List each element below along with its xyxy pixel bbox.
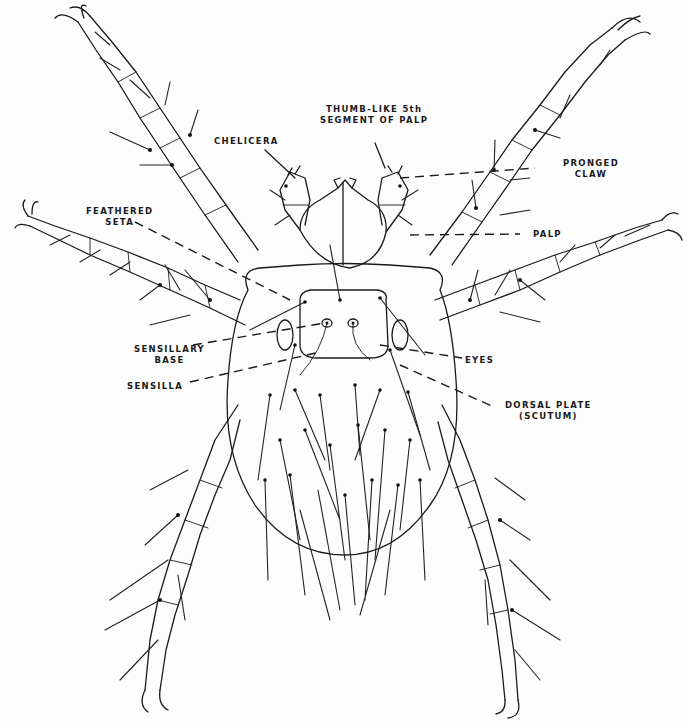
label-feathered-seta: FEATHEREDSETA xyxy=(86,206,153,228)
leader-palp xyxy=(410,234,520,235)
leg-left-3 xyxy=(105,405,240,712)
idiosoma xyxy=(227,245,457,620)
leader-sensilla xyxy=(190,352,320,382)
label-line: CHELICERA xyxy=(214,136,279,146)
label-line: FEATHERED xyxy=(86,206,153,216)
mite-diagram: THUMB-LIKE 5thSEGMENT OF PALP CHELICERA … xyxy=(0,0,688,728)
label-thumb-like-5th-segment: THUMB-LIKE 5thSEGMENT OF PALP xyxy=(320,104,428,126)
eye-left xyxy=(277,320,293,350)
leader-sensillary-base xyxy=(193,323,325,345)
leader-dorsal-plate xyxy=(400,365,494,407)
label-chelicera: CHELICERA xyxy=(214,136,279,147)
label-line: SENSILLARY xyxy=(134,344,205,354)
label-line: (SCUTUM) xyxy=(519,411,578,421)
label-line: CLAW xyxy=(575,169,607,179)
leader-pronged-claw xyxy=(400,168,535,178)
label-sensillary-base: SENSILLARYBASE xyxy=(134,344,205,366)
setae-bases xyxy=(263,296,422,497)
label-line: THUMB-LIKE 5th xyxy=(326,104,422,114)
label-line: SENSILLA xyxy=(127,381,183,391)
label-line: PALP xyxy=(533,229,562,239)
label-dorsal-plate: DORSAL PLATE(SCUTUM) xyxy=(505,400,592,422)
label-line: SETA xyxy=(105,217,134,227)
leader-thumb-like xyxy=(375,143,385,168)
label-line: DORSAL PLATE xyxy=(505,400,592,410)
label-line: SEGMENT OF PALP xyxy=(320,115,428,125)
gnathosoma xyxy=(270,166,418,268)
posterior-setae xyxy=(258,385,430,620)
label-palp: PALP xyxy=(533,229,562,240)
dorsal-plate-outline xyxy=(300,290,388,358)
leg-right-3 xyxy=(438,405,560,718)
eye-right xyxy=(392,320,408,350)
leader-chelicera xyxy=(265,150,295,178)
label-line: EYES xyxy=(465,355,494,365)
label-pronged-claw: PRONGEDCLAW xyxy=(563,158,619,180)
label-eyes: EYES xyxy=(465,355,494,366)
label-line: PRONGED xyxy=(563,158,619,168)
leg-right-1 xyxy=(430,16,650,265)
label-line: BASE xyxy=(154,355,184,365)
label-sensilla: SENSILLA xyxy=(127,381,183,392)
